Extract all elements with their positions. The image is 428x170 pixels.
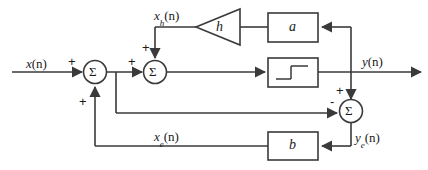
label-output-signal: y(n) xyxy=(362,55,383,68)
label-xe-signal: xe(n) xyxy=(154,130,179,147)
sign-sum2-top: + xyxy=(142,41,150,54)
label-input-signal: x(n) xyxy=(26,57,47,70)
gain-h-label: h xyxy=(216,20,223,34)
sum1-sigma-glyph: Σ xyxy=(89,65,97,78)
label-input-arg: (n) xyxy=(32,56,47,71)
label-ye-signal: ye(n) xyxy=(355,131,380,148)
sum3-sigma-glyph: Σ xyxy=(345,104,353,117)
label-output-arg: (n) xyxy=(368,54,383,69)
label-xe-sub: e xyxy=(160,139,164,149)
label-xh-base: x xyxy=(154,8,160,23)
label-xe-base: x xyxy=(154,129,160,144)
gain-b-label: b xyxy=(289,138,296,152)
sign-sum3-top: + xyxy=(336,84,344,97)
relay-block xyxy=(268,58,318,87)
sign-sum1-bottom: + xyxy=(79,95,87,108)
sign-sum3-left: - xyxy=(330,95,334,108)
label-ye-base: y xyxy=(355,130,361,145)
gain-a-label: a xyxy=(289,20,296,34)
sum2-sigma-glyph: Σ xyxy=(149,65,157,78)
label-ye-arg: (n) xyxy=(365,130,380,145)
label-ye-sub: e xyxy=(361,140,365,150)
sign-sum1-input: + xyxy=(68,55,76,68)
label-xh-arg: (n) xyxy=(164,8,179,23)
label-xe-arg: (n) xyxy=(164,129,179,144)
label-xh-sub: h xyxy=(160,18,165,28)
sign-sum2-left: + xyxy=(128,55,136,68)
block-diagram-canvas: x(n) + + Σ + + Σ xh(n) h a b y(n) + - Σ … xyxy=(0,0,428,170)
label-xh-signal: xh(n) xyxy=(154,9,179,26)
